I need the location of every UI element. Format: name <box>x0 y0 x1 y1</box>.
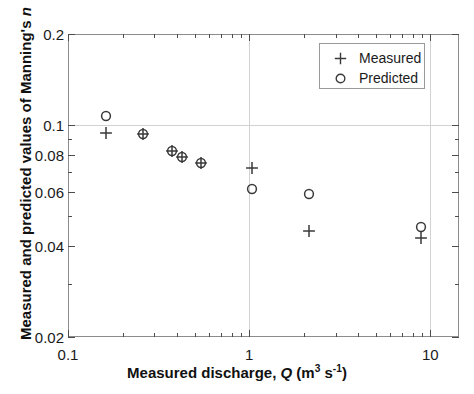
x-axis-units-open: (m <box>292 364 315 381</box>
x-tick-label-10: 10 <box>422 346 439 363</box>
x-tick-top-0.5 <box>195 34 196 38</box>
legend-entry-predicted: Predicted <box>329 69 418 87</box>
x-tick-0.9 <box>241 333 242 337</box>
y-tick-right-0.06 <box>452 192 459 193</box>
x-tick-top-4 <box>358 34 359 38</box>
legend-label-predicted: Predicted <box>359 70 418 86</box>
x-tick-5 <box>376 333 377 337</box>
y-tick-0.04 <box>68 246 75 247</box>
x-tick-top-2 <box>304 34 305 38</box>
data-point-measured-5 <box>245 161 258 174</box>
x-axis-title: Measured discharge, Q (m3 s-1) <box>0 363 474 381</box>
y-tick-0.06 <box>68 192 75 193</box>
x-tick-top-3 <box>336 34 337 38</box>
x-tick-8 <box>413 333 414 337</box>
circle-marker-icon <box>329 69 351 87</box>
x-tick-0.8 <box>232 333 233 337</box>
x-tick-top-0.4 <box>177 34 178 38</box>
x-axis-units-mid: s <box>320 364 333 381</box>
x-tick-0.4 <box>177 333 178 337</box>
y-tick-right-0.09 <box>455 139 459 140</box>
x-tick-top-7 <box>402 34 403 38</box>
x-tick-top-9 <box>422 34 423 38</box>
y-axis-title-prefix: Measured and predicted values of Manning… <box>17 16 34 340</box>
x-tick-0.6000000000000001 <box>209 333 210 337</box>
data-point-predicted-1 <box>136 128 149 141</box>
x-tick-label-0.1: 0.1 <box>58 346 79 363</box>
gridline-x-10 <box>430 34 431 337</box>
legend-label-measured: Measured <box>359 50 421 66</box>
data-point-predicted-3 <box>175 151 188 164</box>
x-tick-top-6 <box>390 34 391 38</box>
data-point-predicted-7 <box>415 220 428 233</box>
x-tick-9 <box>422 333 423 337</box>
y-tick-0.07 <box>68 172 72 173</box>
x-tick-top-0.1 <box>68 34 69 41</box>
x-tick-0.1 <box>68 330 69 337</box>
x-axis-units-exponent-neg1: -1 <box>333 363 342 374</box>
x-tick-label-1: 1 <box>245 346 253 363</box>
y-tick-right-0.05 <box>455 216 459 217</box>
gridline-y-0.1 <box>68 125 459 126</box>
x-axis-symbol-Q: Q <box>280 364 292 381</box>
legend-entry-measured: Measured <box>329 49 421 67</box>
data-point-measured-6 <box>302 225 315 238</box>
y-tick-right-0.08 <box>452 155 459 156</box>
y-tick-0.1 <box>68 125 75 126</box>
y-tick-0.2 <box>68 34 75 35</box>
y-tick-0.02 <box>68 337 75 338</box>
x-tick-top-10 <box>430 34 431 41</box>
x-tick-top-1 <box>249 34 250 41</box>
y-tick-0.08 <box>68 155 75 156</box>
x-tick-top-8 <box>413 34 414 38</box>
x-tick-10 <box>430 330 431 337</box>
y-axis-title: Measured and predicted values of Manning… <box>17 7 34 340</box>
x-tick-top-0.8 <box>232 34 233 38</box>
x-tick-top-0.6000000000000001 <box>209 34 210 38</box>
y-tick-right-0.02 <box>452 337 459 338</box>
data-point-predicted-5 <box>245 182 258 195</box>
x-tick-top-0.2 <box>123 34 124 38</box>
x-tick-top-5 <box>376 34 377 38</box>
x-tick-3 <box>336 333 337 337</box>
x-tick-top-0.9 <box>241 34 242 38</box>
x-tick-0.5 <box>195 333 196 337</box>
x-tick-top-0.7000000000000001 <box>221 34 222 38</box>
x-tick-top-0.30000000000000004 <box>154 34 155 38</box>
x-tick-2 <box>304 333 305 337</box>
figure-scatter-manning-n: 0.1110 0.020.040.060.080.10.2 Measured d… <box>0 0 474 394</box>
y-tick-right-0.2 <box>452 34 459 35</box>
y-tick-0.09 <box>68 139 72 140</box>
plus-marker-icon <box>329 49 351 67</box>
data-point-predicted-0 <box>100 109 113 122</box>
x-tick-0.2 <box>123 333 124 337</box>
y-tick-right-0.07 <box>455 172 459 173</box>
data-point-predicted-4 <box>195 156 208 169</box>
y-tick-0.03 <box>68 284 72 285</box>
x-tick-4 <box>358 333 359 337</box>
y-tick-right-0.1 <box>452 125 459 126</box>
data-point-measured-0 <box>100 126 113 139</box>
x-tick-0.7000000000000001 <box>221 333 222 337</box>
x-tick-7 <box>402 333 403 337</box>
x-axis-title-prefix: Measured discharge, <box>127 364 280 381</box>
x-tick-6 <box>390 333 391 337</box>
x-axis-units-close: ) <box>342 364 347 381</box>
data-point-predicted-6 <box>302 188 315 201</box>
y-tick-right-0.04 <box>452 246 459 247</box>
x-tick-0.30000000000000004 <box>154 333 155 337</box>
y-tick-right-0.03 <box>455 284 459 285</box>
y-tick-0.05 <box>68 216 72 217</box>
y-axis-symbol-n: n <box>17 7 34 16</box>
x-tick-1 <box>249 330 250 337</box>
